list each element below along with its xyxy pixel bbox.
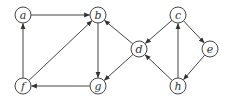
node-label: c: [175, 9, 181, 22]
node-d: d: [131, 41, 147, 57]
node-c: c: [170, 7, 186, 23]
node-label: d: [135, 43, 142, 56]
node-b: b: [90, 7, 106, 23]
node-f: f: [15, 78, 31, 94]
node-label: a: [20, 9, 27, 22]
edge-d-g: [104, 54, 133, 80]
edge-e-h: [184, 55, 205, 80]
nodes-layer: abcdefgh: [15, 7, 218, 94]
node-a: a: [15, 7, 31, 23]
node-label: h: [174, 80, 181, 93]
edges-layer: [23, 15, 205, 86]
node-label: g: [94, 80, 101, 93]
edge-f-b: [29, 21, 92, 81]
edge-d-b: [105, 20, 133, 43]
node-e: e: [202, 41, 218, 57]
node-label: b: [94, 9, 101, 22]
directed-graph: abcdefgh: [0, 0, 234, 101]
edge-h-d: [145, 55, 172, 81]
node-label: e: [207, 43, 214, 56]
edge-c-d: [145, 20, 172, 43]
node-h: h: [170, 78, 186, 94]
node-g: g: [90, 78, 106, 94]
edge-c-e: [183, 21, 204, 43]
